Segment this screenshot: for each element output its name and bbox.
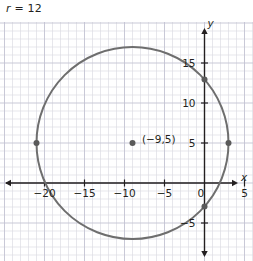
y-tick-label-5: 5 [189,138,196,149]
y-tick-label-10: 10 [182,98,195,109]
x-tick-label-0: 0 [198,188,205,199]
x-axis-label: x [241,172,247,183]
figure-title: r = 12 [6,2,42,15]
circle-graph-figure: r = 12 −20−15−10−505−551015xy(−9,5) [0,0,253,261]
title-equals: = [11,2,28,15]
x-tick-label-neg15: −15 [73,188,95,199]
center-point-label: (−9,5) [142,134,176,145]
x-tick-label-neg10: −10 [113,188,135,199]
graph-canvas [0,22,253,261]
x-tick-label-neg20: −20 [33,188,55,199]
title-value: 12 [28,2,42,15]
y-tick-label-neg5: −5 [180,218,195,229]
y-axis-label: y [208,18,214,29]
x-tick-label-5: 5 [241,188,248,199]
x-tick-label-neg5: −5 [157,188,172,199]
plot-area [0,22,253,261]
y-tick-label-15: 15 [182,58,195,69]
